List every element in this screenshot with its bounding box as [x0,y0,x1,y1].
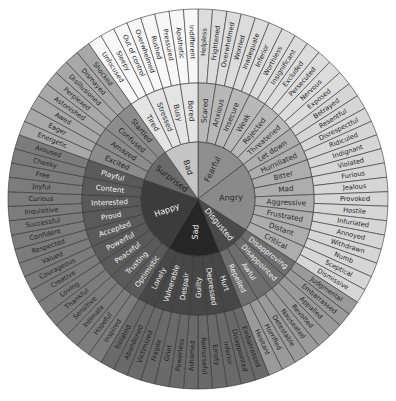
core-label: Angry [219,193,243,203]
core-label: Sad [190,224,200,240]
middle-label: Guilty [194,276,203,298]
outer-label: Joyful [31,182,51,191]
middle-label: Mad [278,184,294,195]
middle-label: Bored [186,100,197,122]
outer-label: Indifferent [187,25,196,60]
middle-label: Aggressive [267,197,307,208]
outer-label: Provoked [340,195,370,203]
core-ring: FearfulAngryDisgustedSadHappySurprisedBa… [141,142,255,256]
outer-label: Helpless [199,28,208,57]
feelings-wheel: HelplessFrightenedOverwhelmedWorriedInad… [0,0,396,401]
outer-label: Curious [29,195,55,203]
outer-label: Remorseful [199,337,208,375]
outer-label: Ashamed [187,340,196,371]
middle-label: Scared [199,98,210,123]
middle-label: Interested [91,197,128,207]
